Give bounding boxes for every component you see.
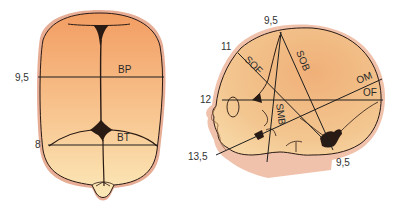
bp-label: BP <box>118 64 132 75</box>
of-value: 12 <box>200 94 212 105</box>
om-value: 13,5 <box>188 151 208 162</box>
skull-diagram: BP BT 9,5 8 SOF SOB <box>0 0 402 210</box>
of-label: OF <box>363 87 377 98</box>
bt-label: BT <box>117 132 130 143</box>
smb-value: 9,5 <box>336 157 350 168</box>
side-view-skull: SOF SOB SMB OM OF 9,5 11 12 13,5 9,5 <box>188 15 385 178</box>
bt-value: 8 <box>35 139 41 150</box>
bp-value: 9,5 <box>15 72 29 83</box>
sob-value: 9,5 <box>264 15 278 26</box>
top-view-skull: BP BT 9,5 8 <box>15 10 166 201</box>
sof-value: 11 <box>221 41 232 52</box>
